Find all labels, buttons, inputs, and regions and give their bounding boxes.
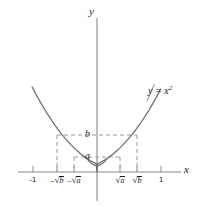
x-tick-label-sqrt-a: √a bbox=[116, 176, 125, 185]
curve-equation-lhs: y = x bbox=[148, 85, 169, 96]
x-tick-label-neg-sqrt-a: –√a bbox=[68, 176, 81, 185]
parabola-curve bbox=[32, 87, 160, 172]
x-tick-label-one: 1 bbox=[159, 176, 163, 184]
x-axis-label: x bbox=[184, 164, 189, 175]
curve-equation-exponent: 2 bbox=[169, 84, 173, 92]
curve-equation-label: y = x2 bbox=[148, 85, 172, 96]
x-tick-label-sqrt-b: √b bbox=[133, 176, 142, 185]
y-axis-label: y bbox=[89, 6, 94, 17]
x-tick-label-neg-sqrt-b: –√b bbox=[51, 176, 64, 185]
parabola-figure: y x a b y = x2 -1–√b–√a√a√b1 bbox=[0, 0, 204, 207]
value-label-a: a bbox=[85, 151, 90, 161]
x-tick-label-neg-one: -1 bbox=[30, 176, 37, 184]
value-label-b: b bbox=[85, 129, 90, 139]
